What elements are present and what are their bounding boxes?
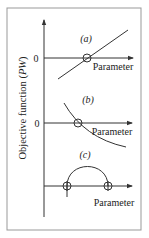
y-axis-label: Objective function (PW) (17, 56, 29, 160)
panel-label-b: (b) (82, 94, 94, 106)
zero-label-a: 0 (34, 53, 39, 64)
panel-a: 0 (a) Parameter (34, 30, 134, 79)
panel-b: 0 (b) Parameter (35, 94, 133, 147)
objective-function-diagram: Objective function (PW) 0 (a) Parameter … (0, 0, 149, 238)
curve-b (64, 103, 126, 147)
x-axis-label-b: Parameter (92, 126, 133, 137)
x-axis-label-c: Parameter (94, 197, 135, 208)
x-axis-label-a: Parameter (93, 61, 134, 72)
panel-c: (c) Parameter (44, 149, 135, 208)
panel-label-a: (a) (80, 33, 92, 45)
curve-c (67, 167, 108, 187)
zero-label-b: 0 (35, 118, 40, 129)
panel-label-c: (c) (79, 149, 91, 161)
